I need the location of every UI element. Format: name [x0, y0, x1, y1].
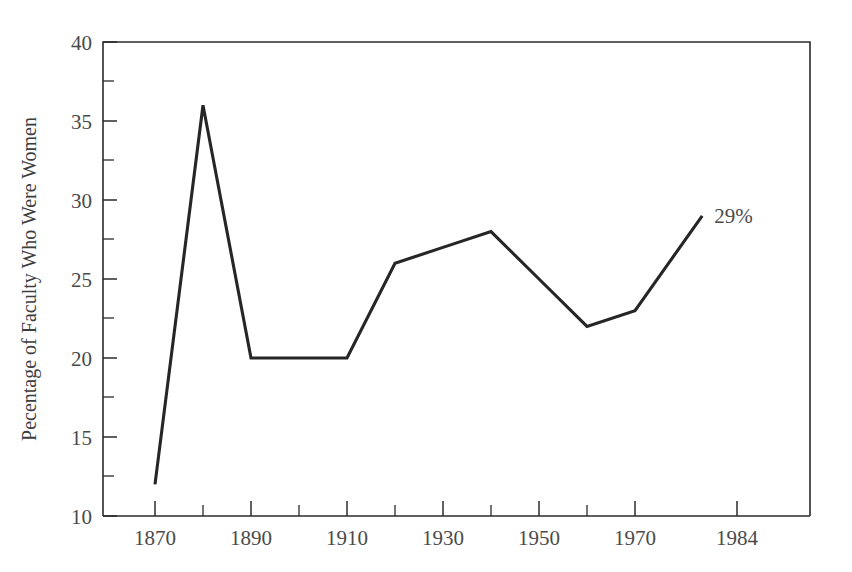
y-tick-label-40: 40 [71, 31, 92, 55]
x-tick-label-1890: 1890 [230, 526, 272, 550]
y-axis-title: Pecentage of Faculty Who Were Women [18, 117, 41, 441]
y-tick-label-35: 35 [71, 110, 92, 134]
x-tick-label-1950: 1950 [518, 526, 560, 550]
y-tick-label-10: 10 [71, 505, 92, 529]
y-tick-label-15: 15 [71, 426, 92, 450]
x-tick-label-1910: 1910 [326, 526, 368, 550]
chart-background [0, 0, 852, 572]
y-tick-label-20: 20 [71, 347, 92, 371]
end-value-annotation: 29% [714, 204, 753, 228]
x-tick-label-1984: 1984 [716, 526, 759, 550]
chart-container: 40 35 30 25 20 15 10 1870 1890 [0, 0, 852, 572]
y-tick-label-25: 25 [71, 268, 92, 292]
x-tick-label-1870: 1870 [134, 526, 176, 550]
x-tick-label-1970: 1970 [614, 526, 656, 550]
y-tick-label-30: 30 [71, 189, 92, 213]
line-chart: 40 35 30 25 20 15 10 1870 1890 [0, 0, 852, 572]
x-tick-label-1930: 1930 [422, 526, 464, 550]
